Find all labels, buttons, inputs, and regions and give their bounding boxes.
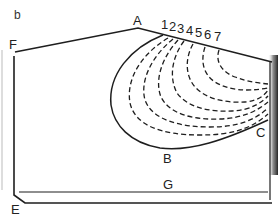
point-label-b: B (163, 151, 172, 166)
contour-label-3: 3 (177, 21, 184, 36)
contour-lines (129, 38, 268, 135)
contour-1 (129, 38, 268, 135)
point-label-g: G (163, 177, 173, 192)
contour-label-5: 5 (195, 25, 202, 40)
panel-label: b (14, 8, 21, 22)
contour-number-labels: 1 2 3 4 5 6 7 (161, 17, 221, 44)
contour-3 (159, 40, 268, 119)
contour-label-2: 2 (169, 19, 176, 34)
point-label-a: A (133, 13, 142, 28)
contour-label-1: 1 (161, 17, 168, 32)
diagram: b A F B C G E 1 2 3 4 5 6 7 (0, 0, 278, 217)
outline-left (14, 56, 272, 203)
contour-label-4: 4 (186, 23, 193, 38)
contour-label-7: 7 (214, 29, 221, 44)
contour-2 (144, 39, 268, 127)
point-label-c: C (256, 125, 265, 140)
point-label-e: E (11, 202, 20, 217)
point-label-f: F (9, 37, 17, 52)
contour-label-6: 6 (204, 27, 211, 42)
